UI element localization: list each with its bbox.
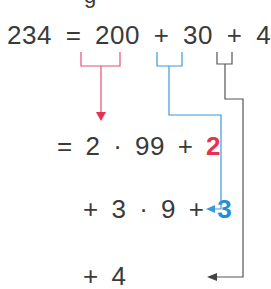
red-bracket-arrow-icon xyxy=(81,52,120,113)
blue-arrowhead-icon xyxy=(206,205,215,213)
gray-bracket-arrow-icon xyxy=(216,52,243,277)
red-arrowhead-icon xyxy=(96,112,106,121)
term-ones: 4 xyxy=(256,22,271,48)
blue-bracket-arrow-icon xyxy=(157,52,221,209)
gray-arrowhead-icon xyxy=(207,273,217,281)
